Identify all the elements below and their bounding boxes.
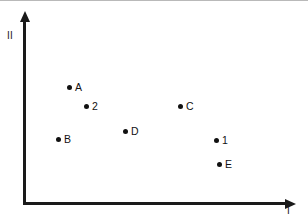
data-point [56,137,61,142]
data-point [217,162,222,167]
data-point [123,129,128,134]
data-point-label: D [131,126,139,137]
data-point-label: C [186,101,194,112]
data-point-label: 1 [222,135,228,146]
y-axis-line [23,21,26,205]
data-point-label: 2 [92,101,98,112]
scatter-plot-figure: II I A 2 C D B 1 E [0,0,308,216]
data-point [214,138,219,143]
x-axis-line [23,202,286,205]
data-point-label: B [64,134,71,145]
data-point-label: E [225,159,232,170]
data-point [67,85,72,90]
data-point [84,104,89,109]
y-axis-label: II [7,31,13,41]
y-axis-arrowhead-icon [20,11,30,22]
data-point-label: A [75,82,82,93]
x-axis-label: I [287,206,290,216]
data-point [178,104,183,109]
